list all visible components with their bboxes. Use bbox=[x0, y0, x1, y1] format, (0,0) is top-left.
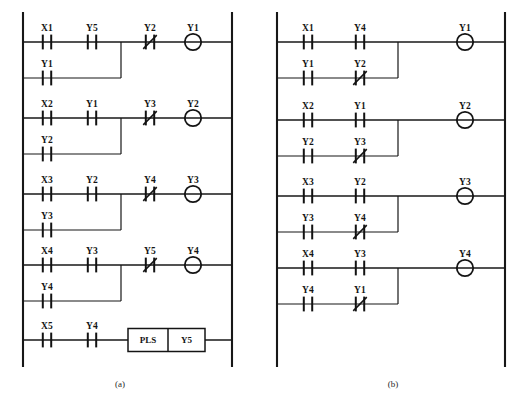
nc-contact-y4[interactable]: Y4 bbox=[143, 175, 157, 202]
parallel-branch: Y4Y1 bbox=[277, 268, 398, 311]
no-contact-y4[interactable]: Y4 bbox=[86, 321, 98, 348]
contact-label: Y3 bbox=[144, 99, 156, 109]
contact-label: X1 bbox=[41, 23, 53, 33]
nc-contact-y1[interactable]: Y1 bbox=[353, 285, 367, 312]
contact-label: Y5 bbox=[144, 246, 156, 256]
output-coil-y2[interactable]: Y2 bbox=[185, 99, 201, 127]
parallel-branch: Y3Y4 bbox=[277, 196, 398, 239]
no-contact-x1[interactable]: X1 bbox=[41, 23, 53, 50]
ladder-diagram-canvas: X1Y5Y2Y1Y1X2Y1Y3Y2Y2X3Y2Y4Y3Y3X4Y3Y5Y4Y4… bbox=[0, 0, 526, 402]
contact-label: Y4 bbox=[41, 282, 53, 292]
coil-label: Y4 bbox=[187, 246, 199, 256]
contact-label: Y3 bbox=[354, 137, 366, 147]
contact-label: Y1 bbox=[86, 99, 98, 109]
no-contact-y1[interactable]: Y1 bbox=[86, 99, 98, 126]
no-contact-x4[interactable]: X4 bbox=[302, 249, 314, 276]
ladder-rung: X5Y4PLSY5 bbox=[23, 321, 232, 352]
output-coil-y2[interactable]: Y2 bbox=[457, 101, 473, 129]
coil-label: Y2 bbox=[459, 101, 471, 111]
no-contact-y5[interactable]: Y5 bbox=[86, 23, 98, 50]
contact-label: Y1 bbox=[354, 285, 366, 295]
no-contact-x4[interactable]: X4 bbox=[41, 246, 53, 273]
contact-label: X3 bbox=[41, 175, 53, 185]
no-contact-y1[interactable]: Y1 bbox=[354, 101, 366, 128]
no-contact-x2[interactable]: X2 bbox=[41, 99, 53, 126]
ladder-panel-a: X1Y5Y2Y1Y1X2Y1Y3Y2Y2X3Y2Y4Y3Y3X4Y3Y5Y4Y4… bbox=[23, 12, 232, 389]
nc-contact-y4[interactable]: Y4 bbox=[353, 213, 367, 240]
output-coil-y3[interactable]: Y3 bbox=[185, 175, 201, 203]
output-coil-y1[interactable]: Y1 bbox=[457, 23, 473, 51]
ladder-rung: X2Y1Y3Y2Y2 bbox=[23, 99, 232, 162]
no-contact-y2[interactable]: Y2 bbox=[86, 175, 98, 202]
contact-label: Y4 bbox=[302, 285, 314, 295]
no-contact-x1[interactable]: X1 bbox=[302, 23, 314, 50]
no-contact-y3[interactable]: Y3 bbox=[86, 246, 98, 273]
no-contact-y2[interactable]: Y2 bbox=[302, 137, 314, 164]
contact-label: X2 bbox=[41, 99, 53, 109]
function-block-instruction: PLS bbox=[140, 335, 157, 345]
parallel-branch: Y1 bbox=[23, 42, 121, 85]
no-contact-y3[interactable]: Y3 bbox=[354, 249, 366, 276]
contact-label: Y2 bbox=[41, 135, 53, 145]
contact-label: Y3 bbox=[41, 211, 53, 221]
contact-label: Y4 bbox=[144, 175, 156, 185]
coil-label: Y1 bbox=[187, 23, 199, 33]
panel-caption-a: (a) bbox=[115, 379, 125, 389]
parallel-branch: Y4 bbox=[23, 265, 121, 308]
contact-label: Y2 bbox=[86, 175, 98, 185]
ladder-rung: X2Y1Y2Y3Y2 bbox=[277, 101, 505, 164]
contact-label: X3 bbox=[302, 177, 314, 187]
contact-label: X1 bbox=[302, 23, 314, 33]
contact-label: Y3 bbox=[86, 246, 98, 256]
no-contact-y4[interactable]: Y4 bbox=[41, 282, 53, 309]
parallel-branch: Y2 bbox=[23, 118, 121, 161]
no-contact-x2[interactable]: X2 bbox=[302, 101, 314, 128]
no-contact-x3[interactable]: X3 bbox=[302, 177, 314, 204]
no-contact-y2[interactable]: Y2 bbox=[354, 177, 366, 204]
parallel-branch: Y3 bbox=[23, 194, 121, 237]
ladder-rung: X3Y2Y4Y3Y3 bbox=[23, 175, 232, 238]
nc-contact-y2[interactable]: Y2 bbox=[353, 59, 367, 86]
contact-label: Y2 bbox=[354, 177, 366, 187]
ladder-rung: X1Y5Y2Y1Y1 bbox=[23, 23, 232, 86]
coil-label: Y2 bbox=[187, 99, 199, 109]
contact-label: X4 bbox=[302, 249, 314, 259]
function-block-pls[interactable]: PLSY5 bbox=[128, 329, 205, 352]
no-contact-x5[interactable]: X5 bbox=[41, 321, 53, 348]
contact-label: Y4 bbox=[354, 23, 366, 33]
contact-label: Y2 bbox=[302, 137, 314, 147]
coil-label: Y3 bbox=[187, 175, 199, 185]
output-coil-y4[interactable]: Y4 bbox=[185, 246, 201, 274]
no-contact-y4[interactable]: Y4 bbox=[354, 23, 366, 50]
nc-contact-y5[interactable]: Y5 bbox=[143, 246, 157, 273]
contact-label: X2 bbox=[302, 101, 314, 111]
no-contact-y4[interactable]: Y4 bbox=[302, 285, 314, 312]
no-contact-y3[interactable]: Y3 bbox=[302, 213, 314, 240]
nc-contact-y2[interactable]: Y2 bbox=[143, 23, 157, 50]
ladder-diagram-figure: X1Y5Y2Y1Y1X2Y1Y3Y2Y2X3Y2Y4Y3Y3X4Y3Y5Y4Y4… bbox=[0, 0, 526, 402]
contact-label: Y4 bbox=[354, 213, 366, 223]
no-contact-y1[interactable]: Y1 bbox=[302, 59, 314, 86]
contact-label: Y3 bbox=[302, 213, 314, 223]
contact-label: X5 bbox=[41, 321, 53, 331]
nc-contact-y3[interactable]: Y3 bbox=[143, 99, 157, 126]
ladder-rung: X3Y2Y3Y4Y3 bbox=[277, 177, 505, 240]
nc-contact-y3[interactable]: Y3 bbox=[353, 137, 367, 164]
contact-label: Y2 bbox=[144, 23, 156, 33]
output-coil-y1[interactable]: Y1 bbox=[185, 23, 201, 51]
no-contact-y2[interactable]: Y2 bbox=[41, 135, 53, 162]
no-contact-y1[interactable]: Y1 bbox=[41, 59, 53, 86]
ladder-rung: X4Y3Y5Y4Y4 bbox=[23, 246, 232, 309]
contact-label: Y1 bbox=[354, 101, 366, 111]
contact-label: Y1 bbox=[41, 59, 53, 69]
coil-label: Y3 bbox=[459, 177, 471, 187]
no-contact-y3[interactable]: Y3 bbox=[41, 211, 53, 238]
function-block-operand: Y5 bbox=[181, 335, 192, 345]
panel-caption-b: (b) bbox=[388, 379, 399, 389]
contact-label: Y1 bbox=[302, 59, 314, 69]
contact-label: X4 bbox=[41, 246, 53, 256]
output-coil-y4[interactable]: Y4 bbox=[457, 249, 473, 277]
no-contact-x3[interactable]: X3 bbox=[41, 175, 53, 202]
output-coil-y3[interactable]: Y3 bbox=[457, 177, 473, 205]
contact-label: Y2 bbox=[354, 59, 366, 69]
